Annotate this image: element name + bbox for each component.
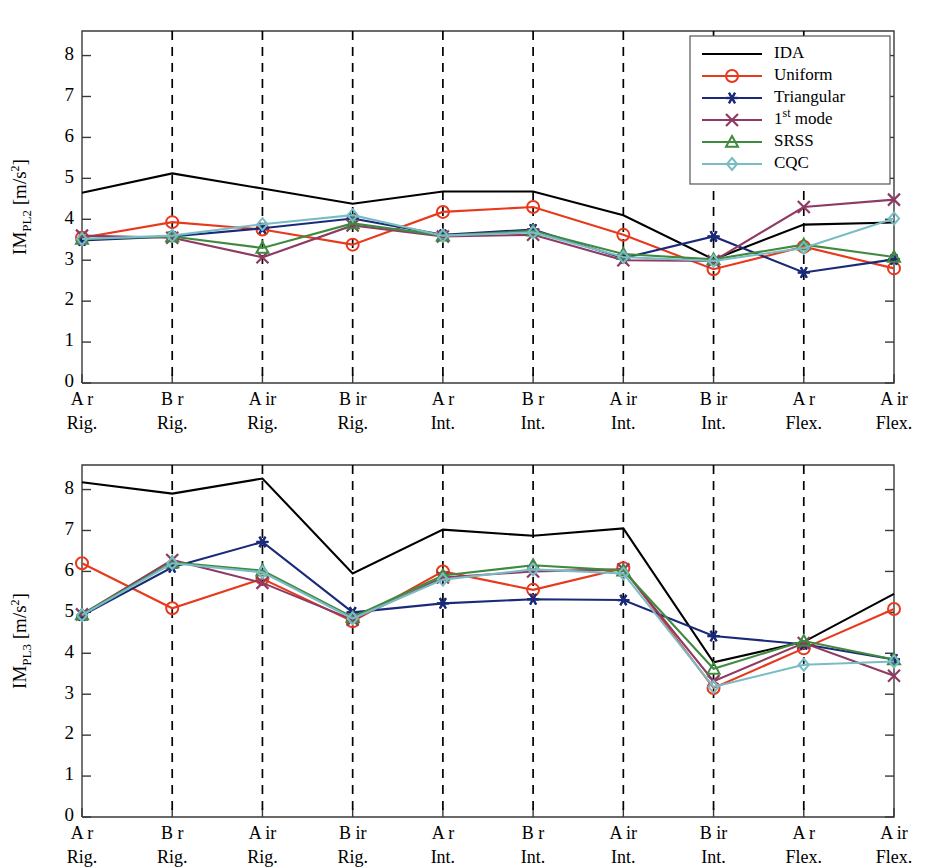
x-tick-label-line1: A ir — [249, 823, 277, 843]
series-line-ida — [82, 173, 894, 259]
x-tick-label-line2: Int. — [521, 413, 546, 433]
y-axis-title-text: IMPL2 [m/s2] — [8, 159, 34, 255]
y-tick-label: 4 — [65, 641, 75, 662]
series-line-srss — [82, 562, 894, 668]
x-tick-label-line1: B r — [161, 823, 184, 843]
x-tick-label-line2: Int. — [701, 847, 726, 867]
ylabel-unit-close: ] — [9, 159, 30, 165]
x-tick-label-line1: A ir — [880, 389, 908, 409]
y-axis-title: IMPL3 [m/s2] — [8, 593, 34, 689]
legend-label-uniform: Uniform — [774, 65, 833, 84]
x-tick-label-line1: A r — [793, 389, 816, 409]
y-tick-label: 2 — [65, 288, 75, 309]
y-tick-label: 1 — [65, 329, 75, 350]
x-tick-label-line2: Rig. — [337, 847, 368, 867]
figure-container: 012345678A rRig.B rRig.A irRig.B irRig.A… — [0, 0, 926, 868]
y-tick-label: 3 — [65, 682, 75, 703]
x-tick-label-line1: A ir — [249, 389, 277, 409]
x-tick-label-line1: B r — [522, 389, 545, 409]
x-tick-label-line1: A r — [71, 389, 94, 409]
x-tick-label-line2: Int. — [521, 847, 546, 867]
x-tick-label-line2: Flex. — [876, 847, 913, 867]
y-tick-label: 2 — [65, 722, 75, 743]
x-tick-label-line1: B ir — [339, 823, 367, 843]
x-tick-label-line1: A r — [432, 389, 455, 409]
y-tick-label: 8 — [65, 43, 75, 64]
x-tick-label-line1: A ir — [610, 389, 638, 409]
x-tick-label-line2: Rig. — [247, 413, 278, 433]
x-tick-label-line2: Rig. — [157, 413, 188, 433]
x-tick-label-line2: Int. — [701, 413, 726, 433]
y-tick-label: 7 — [65, 84, 75, 105]
y-tick-label: 3 — [65, 248, 75, 269]
chart-svg-top: 012345678A rRig.B rRig.A irRig.B irRig.A… — [0, 0, 926, 434]
y-tick-label: 1 — [65, 763, 75, 784]
x-tick-label-line2: Rig. — [67, 413, 98, 433]
legend-first-mode-num: 1 — [774, 109, 783, 128]
series-line-triangular — [82, 542, 894, 659]
legend: IDAUniformTriangular1st modeSRSSCQC — [690, 36, 890, 184]
series-line-cqc — [82, 563, 894, 687]
x-tick-label-line1: B ir — [700, 389, 728, 409]
x-tick-label-line1: B r — [522, 823, 545, 843]
x-tick-label-line2: Int. — [431, 413, 456, 433]
x-tick-label-line1: B ir — [700, 823, 728, 843]
x-tick-label-line2: Rig. — [157, 847, 188, 867]
y-axis-title: IMPL2 [m/s2] — [8, 159, 34, 255]
y-tick-label: 4 — [65, 207, 75, 228]
x-tick-label-line1: A ir — [610, 823, 638, 843]
legend-label-srss: SRSS — [774, 131, 814, 150]
x-tick-label-line2: Flex. — [786, 847, 823, 867]
ylabel-sub: PL2 — [19, 210, 34, 232]
x-tick-label-line2: Rig. — [337, 413, 368, 433]
x-tick-label-line2: Flex. — [876, 413, 913, 433]
chart-panel-top: 012345678A rRig.B rRig.A irRig.B irRig.A… — [0, 0, 926, 434]
x-tick-label-line1: A ir — [880, 823, 908, 843]
x-tick-label-line2: Rig. — [247, 847, 278, 867]
y-tick-label: 6 — [65, 125, 75, 146]
x-tick-label-line1: A r — [793, 823, 816, 843]
x-tick-label-line1: B ir — [339, 389, 367, 409]
chart-svg-bottom: 012345678A rRig.B rRig.A irRig.B irRig.A… — [0, 434, 926, 868]
ylabel-unit: [m/s — [9, 605, 30, 644]
chart-panel-bottom: 012345678A rRig.B rRig.A irRig.B irRig.A… — [0, 434, 926, 868]
y-tick-label: 5 — [65, 600, 75, 621]
x-tick-label-line1: A r — [432, 823, 455, 843]
y-tick-label: 8 — [65, 477, 75, 498]
x-tick-label-line1: B r — [161, 389, 184, 409]
x-tick-label-line2: Rig. — [67, 847, 98, 867]
x-tick-label-line2: Int. — [431, 847, 456, 867]
x-tick-label-line2: Int. — [611, 413, 636, 433]
legend-label-ida: IDA — [774, 43, 805, 62]
x-tick-label-line2: Flex. — [786, 413, 823, 433]
ylabel-sub: PL3 — [19, 644, 34, 666]
x-tick-label-line1: A r — [71, 823, 94, 843]
ylabel-unit: [m/s — [9, 171, 30, 210]
legend-label-cqc: CQC — [774, 153, 809, 172]
x-tick-label-line2: Int. — [611, 847, 636, 867]
legend-first-mode-suffix: mode — [791, 109, 833, 128]
ylabel-main: IM — [9, 232, 30, 255]
ylabel-unit-close: ] — [9, 593, 30, 599]
y-axis-title-text: IMPL3 [m/s2] — [8, 593, 34, 689]
y-tick-label: 7 — [65, 518, 75, 539]
y-tick-label: 5 — [65, 166, 75, 187]
series-line-uniform — [82, 563, 894, 688]
legend-label-triangular: Triangular — [774, 87, 845, 106]
y-tick-label: 6 — [65, 559, 75, 580]
ylabel-main: IM — [9, 666, 30, 689]
